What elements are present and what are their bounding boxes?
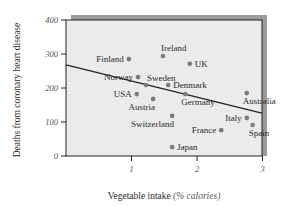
point-marker [219, 128, 224, 133]
plot-area [66, 20, 262, 156]
point-marker [183, 92, 188, 97]
scatter-chart: 0100200300400 123 FinlandNorwayIrelandUK… [0, 0, 282, 206]
x-tick-label: 2 [195, 164, 200, 174]
point-label: Denmark [173, 80, 207, 90]
point-label: Sweden [147, 73, 176, 83]
y-tick-label: 400 [45, 15, 59, 25]
point-marker [244, 91, 249, 96]
point-label: Finland [96, 54, 124, 64]
point-marker [187, 62, 192, 67]
x-tick-label: 3 [259, 164, 264, 174]
point-label: USA [114, 89, 133, 99]
point-label: Italy [225, 113, 242, 123]
point-marker [161, 54, 166, 59]
point-marker [250, 123, 255, 128]
point-marker [166, 83, 171, 88]
point-label: Austria [129, 102, 156, 112]
x-axis-label: Vegetable intake (% calories) [108, 191, 221, 201]
x-axis-label-unit: (% calories) [173, 191, 220, 201]
y-tick-label: 200 [45, 83, 59, 93]
point-label: Ireland [161, 43, 187, 53]
point-marker [134, 92, 139, 97]
point-label: Spain [249, 128, 270, 138]
x-tick-label: 1 [129, 164, 133, 174]
point-label: Australia [243, 96, 276, 106]
point-marker [170, 145, 175, 150]
point-marker [170, 114, 175, 119]
point-label: Norway [104, 72, 133, 82]
y-axis: 0100200300400 [44, 15, 66, 161]
point-label: UK [195, 59, 208, 69]
x-axis-label-text: Vegetable intake [108, 191, 171, 201]
y-tick-label: 300 [44, 49, 59, 59]
point-marker [127, 57, 132, 62]
y-tick-label: 100 [45, 117, 59, 127]
point-label: France [192, 125, 217, 135]
point-marker [244, 116, 249, 121]
point-label: Germany [181, 97, 215, 107]
x-axis: 123 [129, 156, 264, 174]
point-marker [136, 75, 141, 80]
y-axis-label: Deaths from coronary heart disease [12, 23, 22, 158]
point-label: Switzerland [131, 119, 174, 129]
point-label: Japan [177, 142, 198, 152]
point-marker [151, 97, 156, 102]
point-marker [144, 83, 149, 88]
y-tick-label: 0 [54, 151, 59, 161]
